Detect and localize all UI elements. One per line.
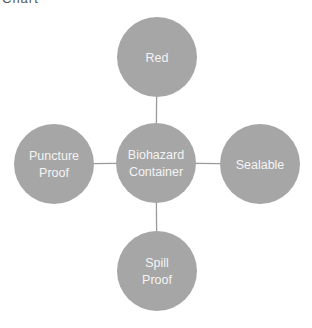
node-bottom-circle <box>117 231 197 311</box>
center-node-label-line: Biohazard <box>128 148 184 162</box>
node-bottom-label-line: Proof <box>142 273 172 287</box>
nodes: BiohazardContainerRedSealableSpillProofP… <box>14 17 300 311</box>
node-left: PunctureProof <box>14 124 94 204</box>
node-right: Sealable <box>220 124 300 204</box>
node-right-label-line: Sealable <box>236 158 285 172</box>
center-node: BiohazardContainer <box>116 123 196 203</box>
node-bottom-label-line: Spill <box>145 256 169 270</box>
node-left-circle <box>14 124 94 204</box>
center-node-label-line: Container <box>129 165 183 179</box>
node-top: Red <box>117 17 197 97</box>
node-top-label-line: Red <box>146 51 169 65</box>
radial-diagram: BiohazardContainerRedSealableSpillProofP… <box>0 0 312 328</box>
node-left-label-line: Puncture <box>29 149 79 163</box>
node-bottom: SpillProof <box>117 231 197 311</box>
node-left-label-line: Proof <box>39 166 69 180</box>
center-node-circle <box>116 123 196 203</box>
